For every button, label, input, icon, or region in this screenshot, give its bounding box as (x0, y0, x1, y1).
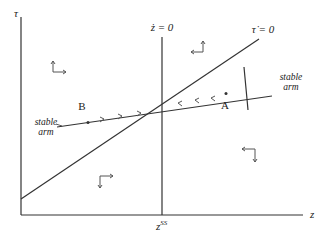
stable-arm-right-label-line2: arm (283, 82, 298, 92)
stable-arm-right-label-line1: stable (280, 72, 303, 82)
direction-arrows-top-right (191, 41, 205, 54)
stable-arm-left-label-line1: stable (35, 117, 58, 127)
direction-arrows-bottom-right (242, 147, 257, 162)
point-b-label: B (78, 100, 85, 112)
x-tick-label: zSS (155, 219, 168, 232)
direction-arrows-bottom-left (98, 174, 113, 188)
phase-diagram: τ z zSS ż = 0 τ̇ = 0 B A stable arm stab… (0, 0, 329, 244)
point-b-marker (87, 121, 90, 124)
shift-line (244, 67, 248, 110)
z-dot-zero-label: ż = 0 (150, 21, 174, 33)
x-axis-label: z (309, 208, 315, 220)
direction-arrows-top-left (51, 61, 66, 74)
point-a-label: A (221, 99, 229, 111)
y-axis-label: τ (14, 7, 19, 19)
point-a-marker (225, 92, 228, 95)
tau-dot-zero-label: τ̇ = 0 (252, 23, 275, 35)
stable-arm-left-label-line2: arm (38, 127, 53, 137)
